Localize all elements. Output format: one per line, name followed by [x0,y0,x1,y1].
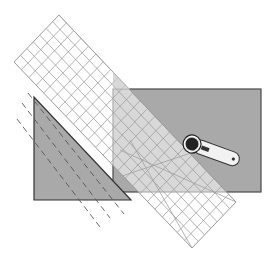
quilting-illustration [0,0,274,255]
